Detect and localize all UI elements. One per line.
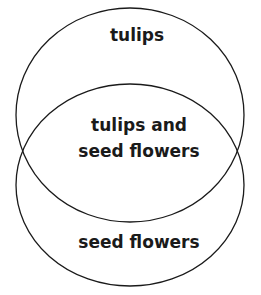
- intersection-label-line2: seed flowers: [78, 141, 199, 161]
- intersection-label-line1: tulips and: [91, 115, 187, 135]
- seed-flowers-label: seed flowers: [78, 232, 199, 252]
- venn-diagram: tulips tulips and seed flowers seed flow…: [0, 0, 261, 295]
- tulips-label: tulips: [110, 25, 164, 45]
